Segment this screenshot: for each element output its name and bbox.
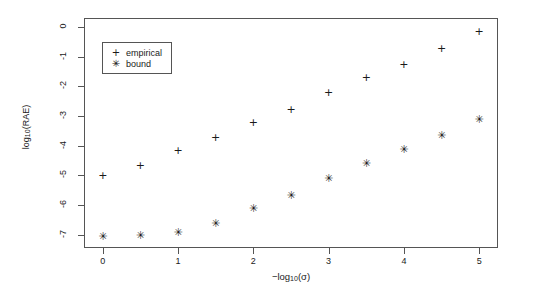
plus-marker: + (173, 145, 182, 156)
legend-label-empirical: empirical (123, 48, 162, 58)
x-tick-mark (479, 248, 480, 254)
x-tick-mark (178, 248, 179, 254)
chart-figure: 0-1-2-3-4-5-6-7 012345 +++++++++++✳✳✳✳✳✳… (0, 0, 536, 297)
legend-entry-bound: ✳ bound (109, 58, 162, 69)
plus-marker: + (362, 72, 371, 83)
asterisk-marker-icon: ✳ (109, 59, 123, 69)
y-tick-label: 0 (58, 16, 68, 36)
asterisk-marker: ✳ (136, 229, 145, 240)
asterisk-marker: ✳ (286, 189, 295, 200)
asterisk-marker: ✳ (211, 217, 220, 228)
plus-marker: + (437, 42, 446, 53)
plus-marker: + (211, 131, 220, 142)
asterisk-marker: ✳ (324, 173, 333, 184)
legend-entry-empirical: + empirical (109, 47, 162, 58)
x-tick-mark (404, 248, 405, 254)
plus-marker: + (98, 170, 107, 181)
y-tick-label: -2 (58, 75, 68, 95)
plus-marker-icon: + (109, 48, 123, 58)
asterisk-marker: ✳ (249, 202, 258, 213)
x-tick-mark (103, 248, 104, 254)
y-tick-label: -5 (58, 164, 68, 184)
y-tick-label: -4 (58, 135, 68, 155)
y-axis-title-subscript: 10 (24, 129, 31, 137)
asterisk-marker: ✳ (475, 113, 484, 124)
x-axis-title-subscript: 10 (290, 275, 298, 282)
x-axis-title-prefix: −log (272, 271, 290, 282)
x-axis-title: −log10(σ) (84, 271, 498, 282)
plus-marker: + (249, 116, 258, 127)
x-tick-label: 1 (168, 256, 188, 266)
y-axis-title-prefix: log (21, 137, 31, 149)
x-tick-label: 3 (319, 256, 339, 266)
x-tick-label: 4 (394, 256, 414, 266)
asterisk-marker: ✳ (362, 158, 371, 169)
x-tick-label: 2 (243, 256, 263, 266)
asterisk-marker: ✳ (98, 231, 107, 242)
x-tick-mark (253, 248, 254, 254)
legend-label-bound: bound (123, 59, 151, 69)
asterisk-marker: ✳ (437, 130, 446, 141)
y-tick-label: -3 (58, 105, 68, 125)
x-tick-label: 0 (93, 256, 113, 266)
y-axis-title: log10(RAE) (21, 87, 31, 167)
y-tick-label: -6 (58, 194, 68, 214)
y-tick-label: -7 (58, 224, 68, 244)
x-tick-label: 5 (469, 256, 489, 266)
asterisk-marker: ✳ (399, 143, 408, 154)
chart-legend: + empirical ✳ bound (102, 42, 172, 74)
x-axis-title-suffix: (σ) (298, 271, 310, 282)
plus-marker: + (136, 159, 145, 170)
plus-marker: + (324, 87, 333, 98)
y-axis-title-suffix: (RAE) (21, 105, 31, 130)
asterisk-marker: ✳ (173, 226, 182, 237)
y-tick-label: -1 (58, 46, 68, 66)
plus-marker: + (286, 103, 295, 114)
x-tick-mark (329, 248, 330, 254)
plus-marker: + (399, 59, 408, 70)
plus-marker: + (475, 26, 484, 37)
